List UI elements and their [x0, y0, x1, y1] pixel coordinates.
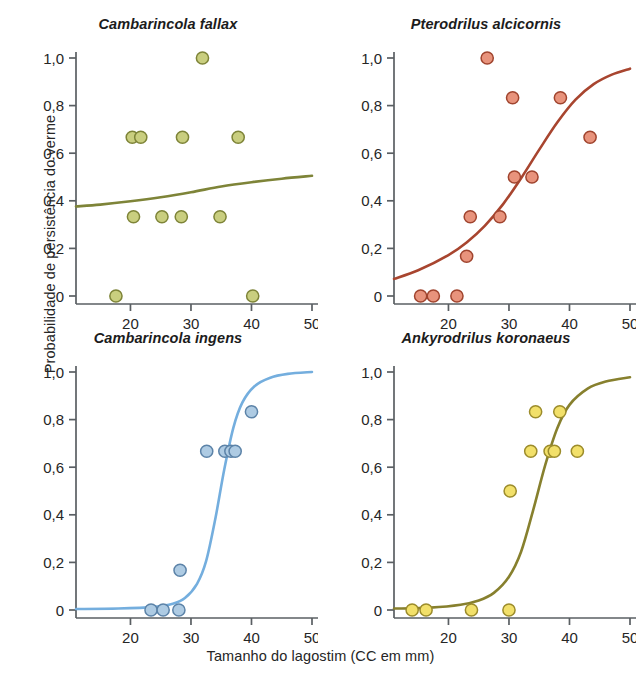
y-tick-label: 0 — [56, 288, 64, 305]
data-point — [420, 604, 432, 616]
x-tick-label: 40 — [561, 629, 578, 646]
plot-area: 00,20,40,60,81,020304050 — [336, 330, 636, 646]
data-point — [461, 250, 473, 262]
fit-curve — [76, 372, 312, 609]
y-tick-label: 1,0 — [361, 364, 382, 381]
data-point — [127, 211, 139, 223]
panel-cambarincola-fallax: Cambarincola fallax 00,20,40,60,81,02030… — [18, 16, 318, 332]
data-point — [530, 406, 542, 418]
figure-root: Probabilidade de persistência do verme C… — [0, 0, 641, 680]
data-point — [508, 171, 520, 183]
x-tick-label: 20 — [440, 629, 457, 646]
data-point — [465, 604, 477, 616]
y-tick-label: 0,2 — [43, 554, 64, 571]
data-point — [481, 52, 493, 64]
panel-cambarincola-ingens: Cambarincola ingens 00,20,40,60,81,02030… — [18, 330, 318, 646]
y-tick-label: 0,2 — [361, 554, 382, 571]
data-point — [245, 406, 257, 418]
y-tick-label: 0,8 — [43, 411, 64, 428]
x-tick-label: 50 — [304, 629, 318, 646]
y-tick-label: 0,8 — [43, 97, 64, 114]
y-tick-label: 0,4 — [361, 506, 382, 523]
y-tick-label: 0 — [56, 602, 64, 619]
data-point — [247, 290, 259, 302]
data-point — [571, 445, 583, 457]
y-tick-label: 0,4 — [43, 506, 64, 523]
data-point — [548, 445, 560, 457]
data-point — [503, 604, 515, 616]
y-tick-label: 0,2 — [361, 240, 382, 257]
data-point — [232, 131, 244, 143]
data-point — [584, 131, 596, 143]
x-tick-label: 40 — [243, 629, 260, 646]
y-tick-label: 1,0 — [43, 364, 64, 381]
x-tick-label: 50 — [622, 629, 636, 646]
x-tick-label: 30 — [501, 629, 518, 646]
y-tick-label: 0,6 — [43, 459, 64, 476]
data-point — [464, 211, 476, 223]
data-point — [135, 131, 147, 143]
y-tick-label: 0,6 — [43, 145, 64, 162]
y-tick-label: 0,4 — [43, 192, 64, 209]
data-point — [554, 406, 566, 418]
data-point — [201, 445, 213, 457]
data-point — [229, 445, 241, 457]
plot-area: 00,20,40,60,81,020304050 — [336, 16, 636, 332]
data-point — [157, 604, 169, 616]
fit-curve — [76, 176, 312, 207]
data-point — [504, 485, 516, 497]
data-point — [175, 211, 187, 223]
data-point — [156, 211, 168, 223]
data-point — [525, 445, 537, 457]
data-point — [526, 171, 538, 183]
data-point — [196, 52, 208, 64]
panel-ankyrodrilus-koronaeus: Ankyrodrilus koronaeus 00,20,40,60,81,02… — [336, 330, 636, 646]
data-point — [214, 211, 226, 223]
y-tick-label: 0,8 — [361, 97, 382, 114]
data-point — [110, 290, 122, 302]
data-point — [507, 92, 519, 104]
data-point — [415, 290, 427, 302]
y-tick-label: 0,4 — [361, 192, 382, 209]
y-tick-label: 0,2 — [43, 240, 64, 257]
data-point — [145, 604, 157, 616]
x-axis-label: Tamanho do lagostim (CC em mm) — [0, 648, 641, 664]
y-tick-label: 0,6 — [361, 145, 382, 162]
data-point — [173, 604, 185, 616]
y-tick-label: 0 — [374, 602, 382, 619]
x-tick-label: 20 — [122, 629, 139, 646]
y-tick-label: 0,8 — [361, 411, 382, 428]
data-point — [494, 211, 506, 223]
data-point — [174, 564, 186, 576]
y-tick-label: 1,0 — [43, 50, 64, 67]
x-tick-label: 30 — [183, 629, 200, 646]
y-tick-label: 1,0 — [361, 50, 382, 67]
y-tick-label: 0 — [374, 288, 382, 305]
plot-area: 00,20,40,60,81,020304050 — [18, 330, 318, 646]
panel-pterodrilus-alcicornis: Pterodrilus alcicornis 00,20,40,60,81,02… — [336, 16, 636, 332]
data-point — [176, 131, 188, 143]
data-point — [451, 290, 463, 302]
plot-area: 00,20,40,60,81,020304050 — [18, 16, 318, 332]
y-tick-label: 0,6 — [361, 459, 382, 476]
data-point — [427, 290, 439, 302]
data-point — [406, 604, 418, 616]
data-point — [554, 92, 566, 104]
